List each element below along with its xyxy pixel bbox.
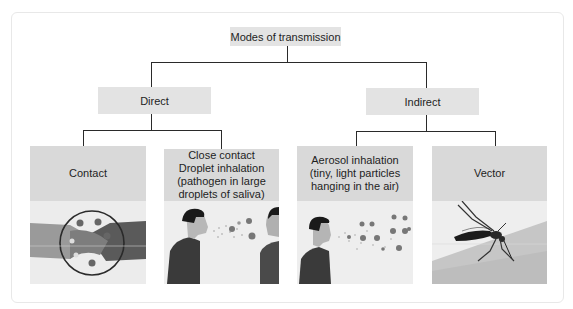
connector-to-contact [83, 130, 84, 146]
card-contact-header: Contact [30, 146, 146, 201]
root-label: Modes of transmission [230, 31, 340, 43]
card-label-line: (tiny, light particles [310, 167, 400, 180]
direct-label: Direct [140, 95, 169, 107]
card-aerosol-header: Aerosol inhalation (tiny, light particle… [297, 146, 413, 201]
connector-indirect-down [426, 115, 427, 131]
handshake-icon [30, 201, 146, 284]
connector-root-down [287, 46, 288, 63]
card-vector: Vector [432, 146, 547, 284]
root-node: Modes of transmission [230, 27, 341, 46]
connector-direct-horizontal [83, 130, 222, 131]
card-contact: Contact [30, 146, 146, 284]
card-vector-header: Vector [432, 146, 547, 201]
connector-to-direct [151, 62, 152, 87]
card-label-line: Aerosol inhalation [310, 154, 400, 167]
card-label-line: Vector [474, 167, 505, 180]
card-label-line: (pathogen in large [177, 175, 266, 188]
card-droplet-header: Close contact Droplet inhalation (pathog… [164, 149, 279, 201]
direct-node: Direct [98, 87, 211, 114]
card-label-line: hanging in the air) [310, 180, 400, 193]
card-label-line: Contact [69, 167, 107, 180]
connector-indirect-horizontal [356, 131, 496, 132]
mosquito-icon [432, 201, 547, 284]
indirect-label: Indirect [404, 96, 440, 108]
connector-to-aerosol [356, 131, 357, 147]
connector-root-horizontal [151, 62, 427, 63]
card-label-line: Droplet inhalation [177, 162, 266, 175]
two-people-droplets-icon [164, 201, 279, 284]
card-aerosol: Aerosol inhalation (tiny, light particle… [297, 146, 413, 284]
card-label-line: droplets of saliva) [177, 188, 266, 201]
connector-direct-down [151, 114, 152, 130]
connector-to-vector [495, 131, 496, 147]
connector-to-indirect [426, 62, 427, 88]
card-label-line: Close contact [177, 149, 266, 162]
person-aerosol-icon [297, 201, 413, 284]
connector-to-droplet [221, 130, 222, 149]
card-droplet: Close contact Droplet inhalation (pathog… [164, 149, 279, 284]
indirect-node: Indirect [366, 88, 479, 115]
